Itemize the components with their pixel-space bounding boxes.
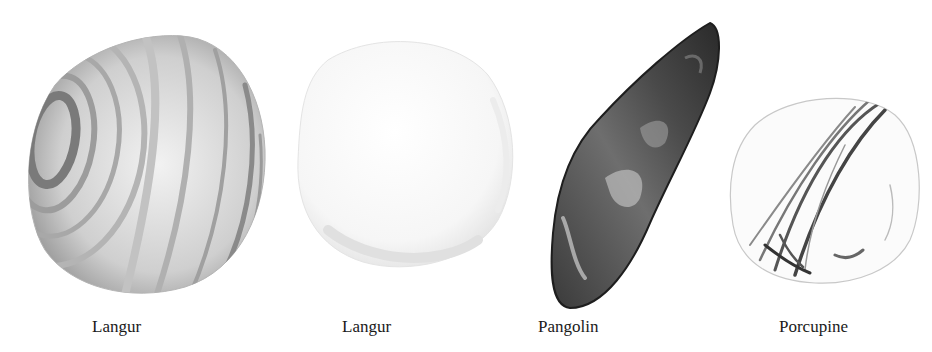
stone-label-3: Pangolin: [538, 317, 598, 337]
stone-illustration-1: [15, 25, 275, 300]
stone-illustration-4: [725, 85, 925, 290]
stone-illustration-3: [545, 18, 725, 313]
stone-label-1: Langur: [92, 317, 141, 337]
stone-label-2: Langur: [342, 317, 391, 337]
stone-illustration-figure: Langur Langur: [0, 0, 932, 352]
stone-label-4: Porcupine: [779, 317, 848, 337]
stone-illustration-2: [288, 30, 520, 275]
